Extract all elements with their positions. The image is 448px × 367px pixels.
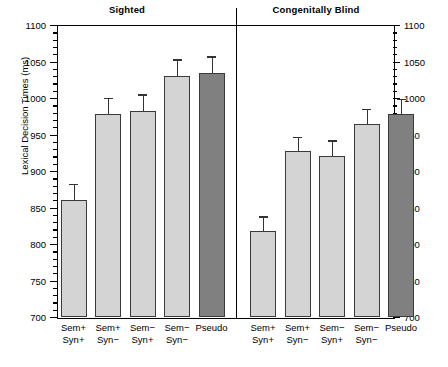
y-tick-label: 1100 [404, 20, 424, 31]
y-tick-major [393, 62, 400, 63]
error-bar-cap [362, 109, 371, 110]
y-tick-minor [53, 310, 57, 311]
y-tick-major [50, 208, 57, 209]
bar [250, 231, 276, 317]
y-tick-minor [53, 302, 57, 303]
y-tick-label: 1050 [404, 56, 425, 67]
y-tick-minor [53, 237, 57, 238]
y-tick-label: 1000 [25, 93, 46, 104]
x-tick-label: Sem+Syn− [95, 322, 120, 345]
error-bar-cap [397, 99, 406, 100]
y-tick-minor [53, 127, 57, 128]
error-bar-cap [104, 98, 113, 99]
y-tick-minor [53, 251, 57, 252]
chart-figure: Sighted Congenitally Blind Lexical Decis… [0, 0, 448, 367]
y-tick-minor [53, 273, 57, 274]
x-tick-label-line: Sem+ [61, 322, 86, 334]
bar [164, 76, 190, 317]
x-tick-label-line: Syn− [354, 334, 379, 346]
x-tick-label-line: Sem− [164, 322, 189, 334]
y-tick-minor [53, 113, 57, 114]
y-tick-minor [53, 186, 57, 187]
x-tick-label-line: Pseudo [195, 322, 227, 334]
error-bar-cap [207, 56, 216, 57]
x-tick-label: Sem−Syn+ [319, 322, 344, 345]
y-tick-minor [53, 91, 57, 92]
y-tick-minor [53, 83, 57, 84]
y-tick-minor [53, 47, 57, 48]
bar [285, 151, 311, 317]
y-tick-minor [53, 105, 57, 106]
y-tick-minor [53, 32, 57, 33]
y-tick-label: 1050 [25, 56, 46, 67]
x-tick-label: Sem−Syn− [164, 322, 189, 345]
x-tick-label: Sem+Syn− [285, 322, 310, 345]
x-tick-label: Sem+Syn+ [250, 322, 275, 345]
y-tick-major [393, 25, 400, 26]
y-tick-minor [393, 54, 397, 55]
y-tick-minor [53, 164, 57, 165]
x-tick-label: Sem+Syn+ [61, 322, 86, 345]
y-tick-minor [53, 288, 57, 289]
x-tick-label: Sem−Syn+ [130, 322, 155, 345]
error-bar-cap [293, 137, 302, 138]
error-bar-cap [328, 140, 337, 141]
y-tick-major [50, 317, 57, 318]
y-tick-minor [53, 259, 57, 260]
y-tick-minor [393, 76, 397, 77]
y-tick-major [50, 171, 57, 172]
y-tick-minor [53, 193, 57, 194]
x-tick-label-line: Syn− [164, 334, 189, 346]
error-bar-cap [173, 59, 182, 60]
y-tick-label: 1100 [26, 20, 46, 31]
y-tick-label: 950 [30, 129, 46, 140]
x-tick-label: Sem−Syn− [354, 322, 379, 345]
error-bar [143, 94, 144, 111]
x-tick-label-line: Sem+ [285, 322, 310, 334]
error-bar [332, 140, 333, 155]
y-tick-major [50, 25, 57, 26]
bar [199, 73, 225, 317]
y-tick-label: 1000 [404, 93, 425, 104]
y-tick-label: 850 [30, 202, 46, 213]
y-tick-minor [53, 266, 57, 267]
x-tick-label-line: Syn+ [61, 334, 86, 346]
error-bar [212, 56, 213, 73]
y-tick-label: 800 [30, 239, 46, 250]
y-tick-minor [53, 120, 57, 121]
y-tick-minor [393, 32, 397, 33]
y-tick-label: 750 [30, 275, 46, 286]
y-tick-major [50, 244, 57, 245]
x-tick-label: Pseudo [385, 322, 417, 334]
y-tick-minor [53, 69, 57, 70]
error-bar [74, 184, 75, 200]
x-tick-label-line: Sem− [130, 322, 155, 334]
bar [130, 111, 156, 317]
y-tick-minor [53, 54, 57, 55]
bar [95, 114, 121, 317]
y-tick-minor [53, 149, 57, 150]
error-bar [401, 99, 402, 114]
x-tick-label-line: Sem− [354, 322, 379, 334]
y-tick-major [50, 98, 57, 99]
error-bar [367, 109, 368, 124]
x-tick-label-line: Sem+ [95, 322, 120, 334]
y-tick-label: 700 [30, 312, 46, 323]
y-tick-minor [53, 295, 57, 296]
y-tick-minor [53, 200, 57, 201]
error-bar [108, 98, 109, 114]
y-tick-minor [53, 215, 57, 216]
error-bar [298, 137, 299, 152]
y-tick-minor [393, 105, 397, 106]
y-tick-minor [53, 178, 57, 179]
x-tick-label-line: Syn+ [319, 334, 344, 346]
y-tick-major [393, 317, 400, 318]
x-tick-label: Pseudo [195, 322, 227, 334]
y-tick-minor [393, 47, 397, 48]
panel-title-congenitally-blind: Congenitally Blind [273, 4, 360, 15]
y-tick-major [50, 281, 57, 282]
y-tick-minor [53, 142, 57, 143]
bar [388, 114, 414, 317]
x-tick-label-line: Syn+ [130, 334, 155, 346]
y-tick-minor [393, 91, 397, 92]
